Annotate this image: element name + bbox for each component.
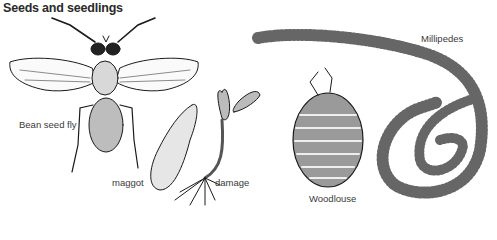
maggot-drawing <box>151 104 197 190</box>
label-damage: damage <box>215 177 249 188</box>
millipedes-drawing <box>258 35 482 193</box>
label-maggot: maggot <box>112 177 144 188</box>
woodlouse-drawing <box>293 68 363 187</box>
label-woodlouse: Woodlouse <box>309 193 356 204</box>
label-millipedes: Millipedes <box>421 33 463 44</box>
label-bean-seed-fly: Bean seed fly <box>19 119 77 130</box>
